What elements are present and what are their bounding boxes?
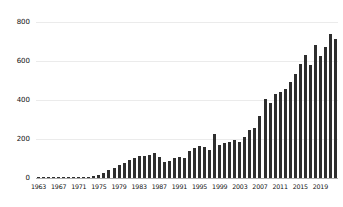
bar-1989 [168, 161, 171, 178]
bar-1985 [148, 155, 151, 178]
x-tick-label-1967: 1967 [48, 183, 70, 190]
x-tick-label-2015: 2015 [289, 183, 311, 190]
bar-2014 [294, 74, 297, 178]
x-tick-label-1995: 1995 [189, 183, 211, 190]
bar-2004 [243, 137, 246, 178]
bar-1975 [97, 175, 100, 178]
bar-1998 [213, 134, 216, 178]
y-tick-label-800: 800 [4, 19, 30, 26]
bar-2017 [309, 65, 312, 178]
y-tick-label-0: 0 [4, 175, 30, 182]
x-tick-label-1987: 1987 [148, 183, 170, 190]
x-tick-label-1999: 1999 [209, 183, 231, 190]
bar-2013 [289, 82, 292, 178]
x-axis-line [36, 178, 338, 179]
x-tick-label-1991: 1991 [168, 183, 190, 190]
bar-1966 [52, 177, 55, 178]
bar-1970 [72, 177, 75, 178]
bar-1971 [77, 177, 80, 178]
bar-1967 [57, 177, 60, 178]
bar-2015 [299, 64, 302, 178]
bar-1996 [203, 147, 206, 178]
x-tick-label-1983: 1983 [128, 183, 150, 190]
bar-1988 [163, 162, 166, 178]
gridline-800 [36, 22, 338, 23]
bar-1995 [198, 146, 201, 178]
bar-1968 [62, 177, 65, 178]
y-tick-label-200: 200 [4, 136, 30, 143]
bar-2020 [324, 47, 327, 178]
bar-2021 [329, 34, 332, 178]
bar-1990 [173, 158, 176, 178]
bar-2016 [304, 55, 307, 178]
x-tick-label-2007: 2007 [249, 183, 271, 190]
bar-2005 [248, 130, 251, 178]
bar-1976 [102, 173, 105, 178]
bar-1973 [87, 177, 90, 178]
bar-2002 [233, 140, 236, 178]
bar-1984 [143, 156, 146, 178]
x-tick-label-1971: 1971 [68, 183, 90, 190]
bar-1993 [188, 151, 191, 178]
bar-2022 [334, 39, 337, 178]
bar-2000 [223, 143, 226, 178]
bar-2001 [228, 142, 231, 178]
bar-2006 [253, 128, 256, 178]
bar-2019 [319, 56, 322, 178]
x-tick-label-1979: 1979 [108, 183, 130, 190]
bar-1981 [128, 160, 131, 178]
bar-1980 [123, 163, 126, 178]
bar-1982 [133, 158, 136, 178]
bar-1963 [37, 177, 40, 178]
bar-1986 [153, 153, 156, 178]
bar-1979 [118, 165, 121, 178]
bar-1965 [47, 177, 50, 178]
bar-2011 [279, 92, 282, 178]
bar-2008 [264, 99, 267, 178]
bar-1977 [107, 170, 110, 178]
bar-1969 [67, 177, 70, 178]
y-tick-label-400: 400 [4, 97, 30, 104]
gridline-600 [36, 61, 338, 62]
gridline-400 [36, 100, 338, 101]
x-tick-label-1963: 1963 [28, 183, 50, 190]
gridline-200 [36, 139, 338, 140]
bar-1972 [82, 177, 85, 178]
bar-1974 [92, 176, 95, 178]
bar-chart-figure: 0200400600800196319671971197519791983198… [0, 0, 343, 207]
bar-2007 [258, 116, 261, 178]
bar-1999 [218, 145, 221, 178]
bar-2009 [269, 103, 272, 178]
bar-1978 [113, 168, 116, 178]
bar-1987 [158, 157, 161, 178]
x-tick-label-2003: 2003 [229, 183, 251, 190]
x-tick-label-2011: 2011 [269, 183, 291, 190]
bar-1964 [42, 177, 45, 178]
bar-2003 [238, 142, 241, 178]
bar-1997 [208, 150, 211, 178]
bar-1994 [193, 148, 196, 178]
x-tick-label-2019: 2019 [309, 183, 331, 190]
bar-2012 [284, 89, 287, 178]
bar-1992 [183, 158, 186, 178]
bar-2010 [274, 94, 277, 178]
y-tick-label-600: 600 [4, 58, 30, 65]
bar-1983 [138, 156, 141, 178]
bar-2018 [314, 45, 317, 178]
bar-1991 [178, 157, 181, 178]
x-tick-label-1975: 1975 [88, 183, 110, 190]
